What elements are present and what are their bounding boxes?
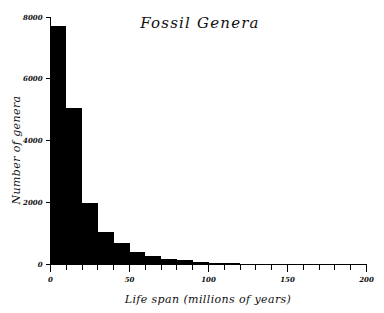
bars-group — [51, 26, 272, 265]
chart-title: Fossil Genera — [139, 14, 260, 32]
y-tick-label: 2000 — [22, 198, 43, 207]
histogram-bar — [130, 252, 146, 264]
histogram-bar — [51, 26, 67, 264]
histogram-bar — [177, 260, 193, 264]
histogram-bar — [145, 256, 161, 265]
x-tick-label: 150 — [280, 275, 295, 284]
x-tick-label: 50 — [125, 275, 135, 284]
histogram-bar — [66, 108, 82, 264]
histogram-bar — [161, 259, 177, 265]
histogram-bar — [98, 232, 114, 264]
fossil-genera-histogram: Fossil Genera Number of genera Life span… — [0, 0, 384, 313]
histogram-bar — [82, 203, 98, 264]
x-tick-label: 200 — [358, 275, 374, 284]
histogram-bar — [114, 243, 130, 264]
x-tick-label: 0 — [48, 275, 53, 284]
y-tick-label: 8000 — [23, 13, 43, 22]
x-axis-title: Life span (millions of years) — [124, 293, 292, 306]
y-tick-label: 6000 — [23, 74, 43, 83]
chart-figure: Fossil Genera Number of genera Life span… — [0, 0, 384, 313]
x-tick-label: 100 — [201, 275, 216, 284]
x-ticks-group: 050100150200 — [48, 265, 374, 284]
y-tick-label: 4000 — [23, 136, 43, 145]
y-tick-label: 0 — [38, 260, 43, 269]
y-ticks-group: 02000400060008000 — [22, 13, 50, 270]
y-axis-title: Number of genera — [10, 96, 23, 206]
